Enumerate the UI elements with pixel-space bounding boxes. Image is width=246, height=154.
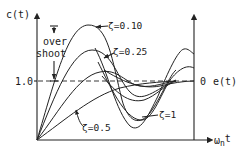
overshoot-label-shoot: shoot — [36, 48, 66, 59]
overshoot-label-over: over — [43, 36, 67, 47]
x-axis-label: ωnt — [214, 133, 231, 148]
e-axis-label: e(t) — [213, 76, 237, 87]
y-axis-label: c(t) — [6, 9, 30, 20]
step-response-chart: c(t) over shoot 1.0 ζ=0.10 ζ=0.25 ζ=0.5 … — [0, 0, 246, 154]
label-zeta-0.25: ζ=0.25 — [113, 46, 147, 57]
e-axis-zero-label: 0 — [200, 76, 206, 87]
error-curve-zeta-0.25 — [98, 62, 194, 120]
label-zeta-0.10: ζ=0.10 — [108, 20, 143, 31]
label-zeta-0.5: ζ=0.5 — [82, 122, 111, 133]
x-axis-t: t — [225, 133, 231, 144]
tick-label-1.0: 1.0 — [15, 76, 33, 87]
leader-zeta-0.10 — [96, 26, 108, 27]
label-zeta-1: ζ=1 — [159, 109, 176, 120]
